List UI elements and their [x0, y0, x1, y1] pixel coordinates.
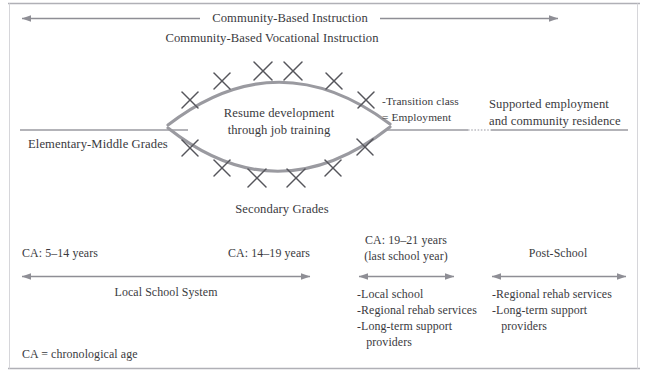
diagram-svg	[0, 0, 646, 378]
x-marks-top	[182, 62, 374, 108]
list-item-last-school-year-2: -Long-term support	[357, 319, 452, 333]
list-item-post-school-1: -Long-term support	[492, 303, 587, 317]
figure-canvas: Community-Based Instruction Community-Ba…	[0, 0, 646, 378]
footnote-ca-definition: CA = chronological age	[22, 347, 138, 361]
label-local-school-system: Local School System	[115, 285, 218, 299]
list-item-last-school-year-1: -Regional rehab services	[357, 303, 477, 317]
list-item-last-school-year-3: providers	[357, 335, 412, 349]
list-item-post-school-0: -Regional rehab services	[492, 287, 612, 301]
label-equals-employment: = Employment	[382, 110, 451, 124]
lens-center-line-1: Resume development	[224, 106, 335, 120]
title-community-based-instruction: Community-Based Instruction	[212, 11, 368, 25]
label-secondary-grades: Secondary Grades	[235, 202, 329, 216]
list-item-last-school-year-0: -Local school	[357, 287, 423, 301]
x-marks-bottom	[182, 139, 373, 187]
label-ca-19-21-line-2: (last school year)	[364, 249, 448, 263]
label-elementary-middle-grades: Elementary-Middle Grades	[28, 137, 168, 151]
label-supported-employment-line-2: and community residence	[489, 114, 621, 128]
list-item-post-school-2: providers	[492, 319, 547, 333]
subtitle-community-based-vocational-instruction: Community-Based Vocational Instruction	[165, 31, 378, 45]
label-post-school: Post-School	[529, 246, 588, 260]
label-ca-5-14: CA: 5–14 years	[22, 246, 98, 260]
label-ca-19-21-line-1: CA: 19–21 years	[365, 233, 447, 247]
label-supported-employment-line-1: Supported employment	[489, 97, 609, 111]
lens-center-line-2: through job training	[228, 123, 331, 137]
label-ca-14-19: CA: 14–19 years	[228, 246, 310, 260]
label-transition-class: -Transition class	[382, 94, 459, 108]
